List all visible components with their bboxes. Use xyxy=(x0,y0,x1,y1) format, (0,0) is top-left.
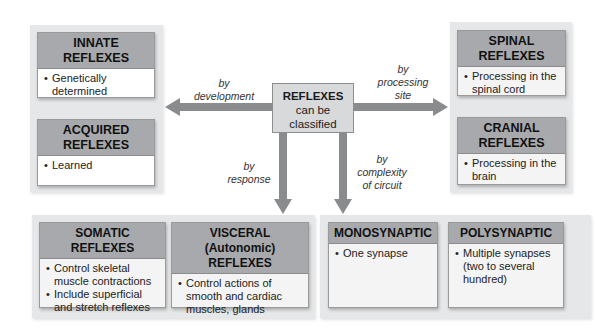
label-line: site xyxy=(372,89,434,102)
bullet: Control skeletal muscle contractions xyxy=(46,262,161,288)
label-by-complexity: by complexity of circuit xyxy=(352,153,412,192)
bullet: Learned xyxy=(44,159,150,172)
center-line1: can be xyxy=(273,103,353,117)
reflexes-classified-box: REFLEXES can be classified xyxy=(272,83,354,133)
arrow-left-icon xyxy=(165,98,180,116)
card-header: MONOSYNAPTIC xyxy=(329,223,437,244)
arrow-right-icon xyxy=(433,98,448,116)
label-line: development xyxy=(184,90,264,103)
spinal-reflexes-card: SPINAL REFLEXES Processing in the spinal… xyxy=(457,30,566,96)
title-line: REFLEXES xyxy=(460,49,563,64)
title-line: ACQUIRED xyxy=(40,123,152,138)
card-header: SOMATIC REFLEXES xyxy=(40,223,165,259)
title-line: CRANIAL xyxy=(460,121,563,136)
title-line: POLYSYNAPTIC xyxy=(451,226,561,241)
label-by-processing-site: by processing site xyxy=(372,63,434,102)
arrow-down-complexity-icon xyxy=(334,199,352,214)
bullet: Control actions of smooth and cardiac mu… xyxy=(178,277,304,316)
card-header: VISCERAL (Autonomic) REFLEXES xyxy=(172,223,308,274)
card-header: SPINAL REFLEXES xyxy=(458,31,565,67)
label-line: response xyxy=(222,173,276,186)
arrow-down-response-icon xyxy=(274,199,292,214)
title-line: MONOSYNAPTIC xyxy=(331,226,435,241)
card-header: CRANIAL REFLEXES xyxy=(458,118,565,154)
label-line: of circuit xyxy=(352,179,412,192)
card-header: INNATE REFLEXES xyxy=(38,33,154,69)
monosynaptic-card: MONOSYNAPTIC One synapse xyxy=(328,222,438,308)
label-line: by xyxy=(372,63,434,76)
title-line: REFLEXES xyxy=(40,51,152,66)
title-line: REFLEXES xyxy=(460,136,563,151)
bullet: Include superficial and stretch reflexes xyxy=(46,288,161,314)
title-line: SPINAL xyxy=(460,34,563,49)
label-by-development: by development xyxy=(184,77,264,103)
visceral-reflexes-card: VISCERAL (Autonomic) REFLEXES Control ac… xyxy=(171,222,309,308)
cranial-reflexes-card: CRANIAL REFLEXES Processing in the brain xyxy=(457,117,566,185)
bullet: One synapse xyxy=(335,247,433,260)
bullet: Processing in the spinal cord xyxy=(464,70,561,96)
label-line: by xyxy=(222,160,276,173)
center-line2: classified xyxy=(273,117,353,131)
title-line: REFLEXES xyxy=(174,256,306,271)
title-line: SOMATIC REFLEXES xyxy=(42,226,163,256)
title-line: REFLEXES xyxy=(40,138,152,153)
title-line: VISCERAL (Autonomic) xyxy=(174,226,306,256)
somatic-reflexes-card: SOMATIC REFLEXES Control skeletal muscle… xyxy=(39,222,166,308)
innate-reflexes-card: INNATE REFLEXES Genetically determined xyxy=(37,32,155,98)
card-header: ACQUIRED REFLEXES xyxy=(38,120,154,156)
acquired-reflexes-card: ACQUIRED REFLEXES Learned xyxy=(37,119,155,186)
polysynaptic-card: POLYSYNAPTIC Multiple synapses (two to s… xyxy=(448,222,564,308)
bullet: Processing in the brain xyxy=(464,157,561,183)
label-line: by xyxy=(352,153,412,166)
bullet: Multiple synapses (two to several hundre… xyxy=(455,247,559,286)
card-header: POLYSYNAPTIC xyxy=(449,223,563,244)
label-line: complexity xyxy=(352,166,412,179)
title-line: INNATE xyxy=(40,36,152,51)
label-by-response: by response xyxy=(222,160,276,186)
center-title: REFLEXES xyxy=(273,89,353,103)
bullet: Genetically determined xyxy=(44,72,150,98)
label-line: by xyxy=(184,77,264,90)
label-line: processing xyxy=(372,76,434,89)
